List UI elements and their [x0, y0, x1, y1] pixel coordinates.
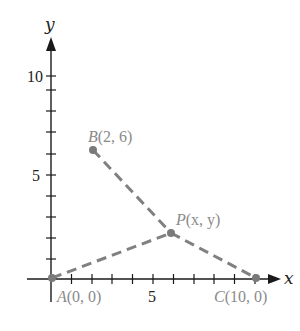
y-tick-label-10: 10	[27, 68, 43, 85]
point-label-a: A(0, 0)	[56, 288, 101, 306]
x-axis-label: x	[284, 268, 294, 288]
y-axis-arrow-icon	[46, 37, 56, 51]
point-a	[48, 274, 56, 282]
point-label-p: P(x, y)	[175, 211, 220, 229]
y-axis-label: y	[44, 14, 55, 34]
point-label-b: B(2, 6)	[88, 128, 132, 146]
x-tick-label-5: 5	[148, 288, 156, 305]
point-c	[252, 274, 260, 282]
x-axis-arrow-icon	[268, 274, 281, 284]
point-label-c: C(10, 0)	[214, 288, 267, 306]
point-b	[89, 146, 97, 154]
segment-b-p	[93, 150, 171, 233]
point-p	[167, 229, 175, 237]
segment-a-p	[52, 233, 171, 278]
y-tick-label-5: 5	[32, 167, 40, 184]
dashed-segments	[52, 150, 256, 278]
coordinate-diagram: x y 10 5 5 A(0, 0) B(2, 6) P(x, y) C(10,…	[0, 0, 300, 331]
segment-p-c	[171, 233, 256, 278]
